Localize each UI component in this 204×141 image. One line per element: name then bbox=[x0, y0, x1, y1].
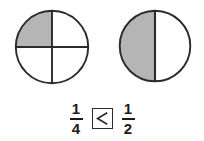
comparison-answer-box[interactable]: < bbox=[92, 108, 113, 129]
less-than-icon bbox=[95, 111, 110, 126]
circle-one-quarter: 1/4 bbox=[13, 8, 91, 86]
left-fraction: 1 4 bbox=[70, 101, 83, 136]
figures-row: 1/4 1/2 bbox=[0, 0, 204, 92]
fraction-comparison-worksheet: 1/4 1/2 1 4 < 1 2 bbox=[0, 0, 204, 141]
right-fraction-denominator: 2 bbox=[122, 120, 134, 136]
left-fraction-denominator: 4 bbox=[70, 120, 82, 136]
right-fraction-numerator: 1 bbox=[122, 101, 134, 117]
left-fraction-numerator: 1 bbox=[70, 101, 82, 117]
circle-one-half-shaded-part bbox=[120, 11, 155, 82]
circle-one-half: 1/2 bbox=[117, 8, 193, 84]
right-fraction: 1 2 bbox=[122, 101, 135, 136]
comparison-expression: 1 4 < 1 2 bbox=[0, 96, 204, 141]
